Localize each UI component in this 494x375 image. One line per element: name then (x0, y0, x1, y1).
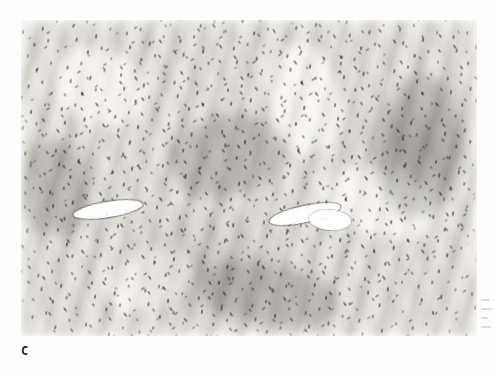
micrograph-image (21, 20, 477, 336)
panel-label: C (21, 345, 29, 357)
bleedthrough-mark (481, 308, 492, 310)
micrograph-frame (21, 20, 477, 336)
bleedthrough-mark (481, 299, 490, 301)
page-bleedthrough-artifact (481, 297, 494, 337)
bleedthrough-mark (481, 326, 491, 328)
bleedthrough-mark (481, 317, 488, 319)
figure-page: C (0, 0, 494, 375)
illumination-mottling (21, 20, 477, 336)
